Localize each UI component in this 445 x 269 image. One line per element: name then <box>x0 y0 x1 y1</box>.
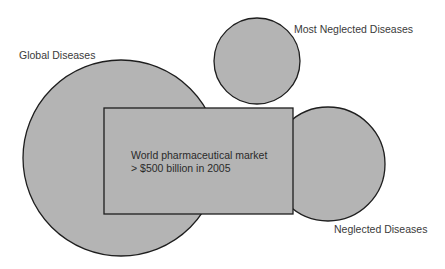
market-line-2: > $500 billion in 2005 <box>131 162 267 175</box>
global-diseases-label: Global Diseases <box>19 49 95 61</box>
market-description: World pharmaceutical market > $500 billi… <box>131 149 267 175</box>
market-line-1: World pharmaceutical market <box>131 149 267 162</box>
neglected-diseases-label: Neglected Diseases <box>334 223 427 235</box>
most-neglected-diseases-label: Most Neglected Diseases <box>294 23 413 35</box>
most-neglected-diseases-circle <box>214 18 300 104</box>
